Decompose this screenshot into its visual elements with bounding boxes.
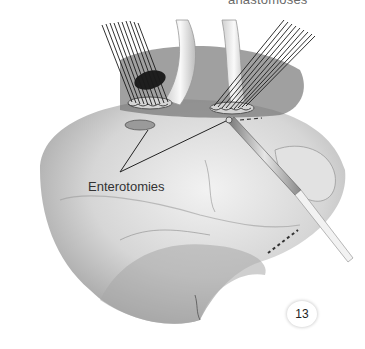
top-caption: anastomoses	[228, 0, 308, 7]
enterotomies-label: Enterotomies	[88, 179, 165, 194]
surgical-illustration: anastomoses Enterotomies 13	[0, 0, 365, 349]
bowel-mass	[40, 99, 345, 324]
illustration-artwork	[0, 0, 365, 349]
figure-number-badge: 13	[287, 301, 317, 327]
